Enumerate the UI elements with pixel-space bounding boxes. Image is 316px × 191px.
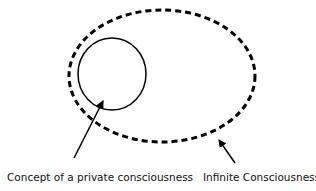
private-consciousness-arrow	[74, 101, 103, 158]
infinite-consciousness-ellipse	[69, 10, 255, 142]
private-consciousness-label: Concept of a private consciousness	[7, 172, 193, 183]
diagram-canvas	[0, 0, 316, 191]
infinite-consciousness-label: Infinite Consciousness	[203, 172, 316, 183]
infinite-consciousness-arrow	[219, 140, 235, 163]
private-consciousness-circle	[78, 38, 146, 110]
